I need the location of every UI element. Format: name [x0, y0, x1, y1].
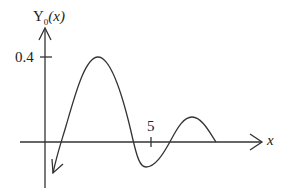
x-tick-label: 5	[147, 119, 155, 134]
y0-curve	[53, 57, 216, 173]
y-axis-label: Y0(x)	[33, 9, 65, 27]
x-axis-label: x	[267, 133, 274, 148]
y-tick-label: 0.4	[15, 50, 34, 65]
bessel-plot	[0, 0, 293, 196]
y-axis-label-arg: (x)	[48, 8, 65, 24]
y-axis-label-main: Y	[33, 8, 44, 24]
